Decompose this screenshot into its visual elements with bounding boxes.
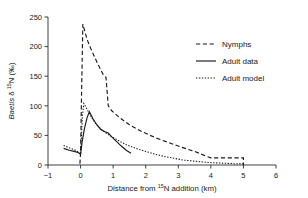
series-line-adult-model xyxy=(64,103,244,163)
figure-container: −10123456 050100150200250 Distance from … xyxy=(0,0,308,198)
line-chart: −10123456 050100150200250 Distance from … xyxy=(0,0,308,198)
legend-label-nymphs: Nymphs xyxy=(222,40,251,49)
x-tick-label: −1 xyxy=(44,171,53,180)
legend-label-adult-model: Adult model xyxy=(222,74,264,83)
series-line-nymphs xyxy=(80,24,244,165)
x-axis-tick-labels: −10123456 xyxy=(44,171,278,180)
x-tick-label: 0 xyxy=(78,171,82,180)
series-line-adult-data xyxy=(64,112,131,155)
data-series-group xyxy=(64,24,244,165)
x-tick-label: 3 xyxy=(176,171,180,180)
y-tick-label: 0 xyxy=(38,161,42,170)
x-tick-label: 1 xyxy=(111,171,115,180)
x-tick-label: 6 xyxy=(274,171,278,180)
chart-legend: NymphsAdult dataAdult model xyxy=(196,40,264,83)
y-tick-label: 50 xyxy=(34,131,42,140)
y-tick-label: 250 xyxy=(29,13,42,22)
legend-label-adult-data: Adult data xyxy=(222,57,259,66)
x-axis-ticks xyxy=(48,165,276,169)
x-tick-label: 2 xyxy=(144,171,148,180)
y-axis-ticks xyxy=(45,17,49,165)
y-tick-label: 200 xyxy=(29,42,42,51)
x-tick-label: 5 xyxy=(241,171,245,180)
x-axis-title: Distance from 15N addition (km) xyxy=(107,183,217,193)
y-axis-tick-labels: 050100150200250 xyxy=(29,13,42,170)
y-axis-title: Baetis δ 15N (‰) xyxy=(6,62,16,120)
y-tick-label: 150 xyxy=(29,72,42,81)
y-tick-label: 100 xyxy=(29,102,42,111)
x-tick-label: 4 xyxy=(209,171,213,180)
